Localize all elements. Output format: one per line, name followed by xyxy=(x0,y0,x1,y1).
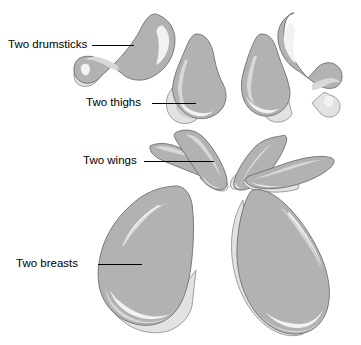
label-two-wings: Two wings xyxy=(83,155,137,167)
part-breast-right xyxy=(231,190,329,336)
leader-line-drumsticks xyxy=(92,45,134,46)
part-thigh-left xyxy=(166,34,226,123)
label-two-breasts: Two breasts xyxy=(16,258,78,270)
leader-line-breasts xyxy=(98,264,142,265)
leader-line-thighs xyxy=(152,103,196,104)
chicken-parts-figure: Two drumsticks Two thighs Two wings Two … xyxy=(0,0,361,345)
part-breast-left xyxy=(98,186,196,333)
part-drumstick-left xyxy=(74,14,175,87)
leader-line-wings xyxy=(144,161,214,162)
chicken-parts-illustration xyxy=(0,0,361,345)
label-two-drumsticks: Two drumsticks xyxy=(8,39,87,51)
label-two-thighs: Two thighs xyxy=(86,97,141,109)
